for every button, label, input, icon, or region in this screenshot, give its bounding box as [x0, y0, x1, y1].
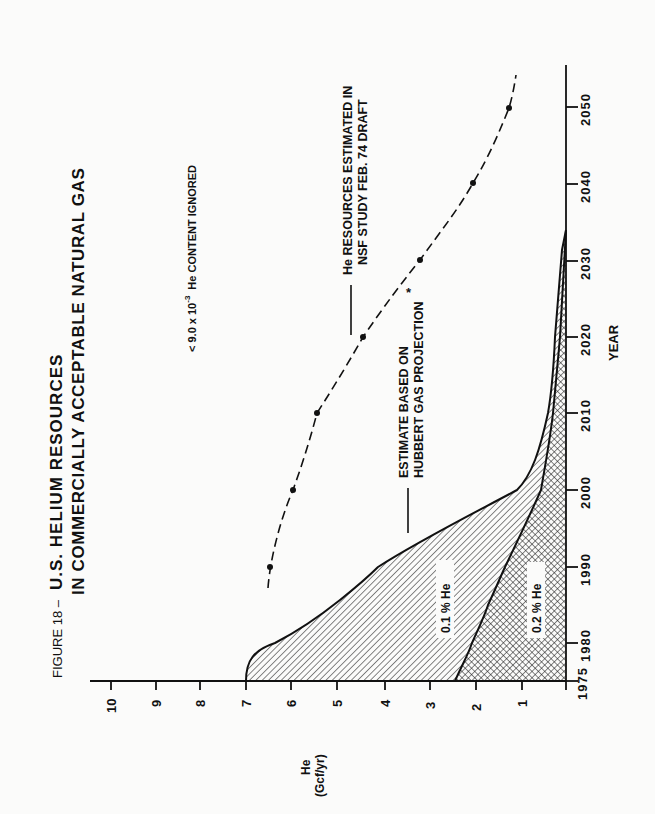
x-tick-2020: 2020 — [578, 323, 593, 356]
y-tick-6: 6 — [284, 700, 299, 707]
label-0-2-percent: 0.2 % He — [527, 562, 545, 638]
svg-text:NSF STUDY FEB. 74 DRAFT: NSF STUDY FEB. 74 DRAFT — [356, 99, 370, 265]
svg-text:HUBBERT GAS PROJECTION: HUBBERT GAS PROJECTION — [412, 302, 426, 478]
svg-text:< 9.0 x 10-3He CONTENT IGNORED: < 9.0 x 10-3He CONTENT IGNORED — [183, 165, 198, 352]
x-tick-2030: 2030 — [578, 247, 593, 280]
x-tick-1975: 1975 — [575, 667, 590, 700]
svg-text:He RESOURCES ESTIMATED IN: He RESOURCES ESTIMATED IN — [341, 86, 355, 275]
x-axis-label: YEAR — [606, 324, 621, 361]
y-tick-3: 3 — [423, 702, 438, 709]
note-suffix: He CONTENT IGNORED — [186, 165, 198, 290]
note-exponent: -3 — [183, 295, 192, 303]
y-tick-8: 8 — [193, 700, 208, 707]
x-tick-1980: 1980 — [578, 629, 593, 662]
year-axis: 1975 1980 1990 2000 2010 2020 2030 2040 … — [566, 65, 621, 700]
y-axis-label-line2: (Gcf/yr) — [313, 754, 327, 797]
y-tick-10: 10 — [104, 699, 119, 713]
y-tick-9: 9 — [149, 700, 164, 707]
hubbert-annotation: ESTIMATE BASED ON HUBBERT GAS PROJECTION… — [397, 285, 426, 533]
he-content-note: < 9.0 x 10-3He CONTENT IGNORED — [183, 165, 198, 352]
title-line-1: U.S. HELIUM RESOURCES — [47, 354, 66, 590]
helium-resources-figure: FIGURE 18 – U.S. HELIUM RESOURCES IN COM… — [0, 0, 655, 814]
value-axis: 10 9 8 7 6 5 4 3 2 1 He (Gcf/yr) — [90, 681, 566, 797]
y-tick-7: 7 — [239, 700, 254, 707]
figure-title-block: FIGURE 18 – U.S. HELIUM RESOURCES IN COM… — [47, 168, 88, 678]
title-line-2: IN COMMERCIALLY ACCEPTABLE NATURAL GAS — [69, 168, 88, 595]
y-tick-5: 5 — [330, 700, 345, 707]
y-tick-1: 1 — [515, 700, 530, 707]
label-0-1-percent: 0.1 % He — [436, 560, 454, 638]
figure-label: FIGURE 18 – — [50, 599, 65, 678]
nsf-annotation: He RESOURCES ESTIMATED IN NSF STUDY FEB.… — [341, 86, 370, 335]
x-tick-2010: 2010 — [578, 399, 593, 432]
y-tick-4: 4 — [378, 699, 393, 707]
svg-text:*: * — [406, 285, 412, 300]
svg-text:0.2 % He: 0.2 % He — [530, 583, 544, 633]
x-tick-2040: 2040 — [578, 170, 593, 203]
x-tick-1990: 1990 — [578, 553, 593, 586]
y-tick-2: 2 — [469, 704, 484, 711]
note-prefix: < 9.0 x 10 — [186, 303, 198, 352]
nsf-data-points — [267, 105, 512, 570]
x-tick-2050: 2050 — [578, 93, 593, 126]
y-axis-label-line1: He — [299, 759, 313, 775]
svg-text:ESTIMATE BASED ON: ESTIMATE BASED ON — [397, 346, 411, 478]
x-tick-2000: 2000 — [578, 476, 593, 509]
svg-text:0.1 % He: 0.1 % He — [439, 583, 453, 633]
